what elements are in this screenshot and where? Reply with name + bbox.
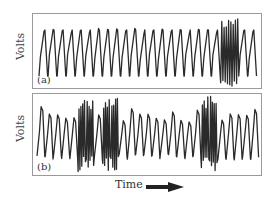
- panel-label-b: (b): [37, 161, 51, 172]
- signal-trace-a: [33, 14, 263, 90]
- y-axis-label-b: Volts: [14, 109, 27, 149]
- y-axis-label-a: Volts: [14, 27, 27, 67]
- arrow-right-icon: [146, 182, 184, 192]
- signal-trace-b: [33, 94, 263, 177]
- panel-label-a: (a): [37, 74, 51, 85]
- plot-panel-b: (b): [32, 93, 262, 176]
- plot-panel-a: (a): [32, 13, 262, 89]
- x-axis-label: Time: [115, 178, 143, 191]
